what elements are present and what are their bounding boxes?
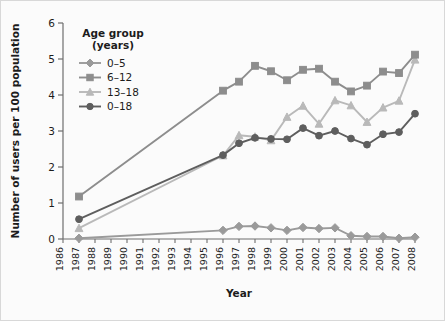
x-tick-label: 2008 — [406, 247, 417, 271]
x-tick-label: 1998 — [246, 247, 257, 271]
legend-label: 13–18 — [107, 86, 139, 98]
data-point-square — [87, 74, 93, 80]
x-tick-label: 1991 — [134, 247, 145, 271]
x-tick-label: 1994 — [182, 247, 193, 271]
data-point-circle — [412, 110, 419, 117]
y-tick-label: 3 — [48, 125, 55, 137]
data-point-circle — [332, 128, 339, 135]
legend-title-line2: (years) — [92, 39, 134, 51]
data-point-square — [396, 70, 403, 77]
line-chart: 0123456 19861987198819891990199119921993… — [1, 1, 445, 321]
data-point-circle — [76, 216, 83, 223]
y-tick-label: 4 — [48, 89, 55, 101]
data-point-square — [332, 78, 339, 85]
data-point-circle — [220, 152, 227, 159]
x-tick-label: 2005 — [358, 247, 369, 271]
x-axis-title: Year — [225, 287, 253, 299]
data-point-square — [268, 68, 275, 75]
data-point-square — [284, 77, 291, 84]
x-tick-label: 1996 — [214, 247, 225, 271]
data-point-circle — [236, 140, 243, 147]
data-point-circle — [396, 129, 403, 136]
chart-figure: 0123456 19861987198819891990199119921993… — [0, 0, 445, 321]
y-tick-label: 0 — [48, 233, 55, 245]
data-point-square — [316, 65, 323, 72]
y-tick-label: 1 — [48, 197, 55, 209]
data-point-square — [76, 193, 83, 200]
x-tick-label: 1997 — [230, 247, 241, 271]
data-point-square — [300, 66, 307, 73]
data-point-circle — [268, 136, 275, 143]
y-tick-label: 2 — [48, 161, 55, 173]
x-axis-ticks: 1986198719881989199019911992199319941995… — [54, 239, 417, 271]
data-point-square — [380, 68, 387, 75]
x-tick-label: 2000 — [278, 247, 289, 271]
data-point-square — [220, 87, 227, 94]
data-point-square — [364, 82, 371, 89]
x-tick-label: 2006 — [374, 247, 385, 271]
legend-label: 0–18 — [107, 100, 132, 112]
x-tick-label: 1993 — [166, 247, 177, 271]
data-point-circle — [87, 103, 93, 109]
data-point-square — [236, 78, 243, 85]
data-point-square — [252, 62, 259, 69]
y-axis-title: Number of users per 100 population — [9, 24, 21, 239]
data-point-circle — [380, 131, 387, 138]
x-tick-label: 1995 — [198, 247, 209, 271]
data-point-circle — [284, 136, 291, 143]
x-tick-label: 1988 — [86, 247, 97, 271]
legend-label: 0–5 — [107, 57, 126, 69]
x-tick-label: 2002 — [310, 247, 321, 271]
data-point-square — [412, 51, 419, 58]
y-tick-label: 5 — [48, 53, 55, 65]
data-point-circle — [300, 125, 307, 132]
x-tick-label: 1999 — [262, 247, 273, 271]
legend-label: 6–12 — [107, 71, 132, 83]
x-tick-label: 1986 — [54, 247, 65, 271]
y-tick-label: 6 — [48, 17, 55, 29]
x-tick-label: 1992 — [150, 247, 161, 271]
x-tick-label: 2003 — [326, 247, 337, 271]
y-axis-ticks: 0123456 — [48, 17, 63, 245]
x-tick-label: 2004 — [342, 247, 353, 271]
data-point-circle — [348, 135, 355, 142]
x-tick-label: 1990 — [118, 247, 129, 271]
x-tick-label: 1987 — [70, 247, 81, 271]
data-point-circle — [364, 141, 371, 148]
data-point-square — [348, 88, 355, 95]
x-tick-label: 2001 — [294, 247, 305, 271]
x-tick-label: 2007 — [390, 247, 401, 271]
legend-title-line1: Age group — [82, 27, 144, 39]
x-tick-label: 1989 — [102, 247, 113, 271]
data-point-circle — [252, 134, 259, 141]
data-point-circle — [316, 132, 323, 139]
